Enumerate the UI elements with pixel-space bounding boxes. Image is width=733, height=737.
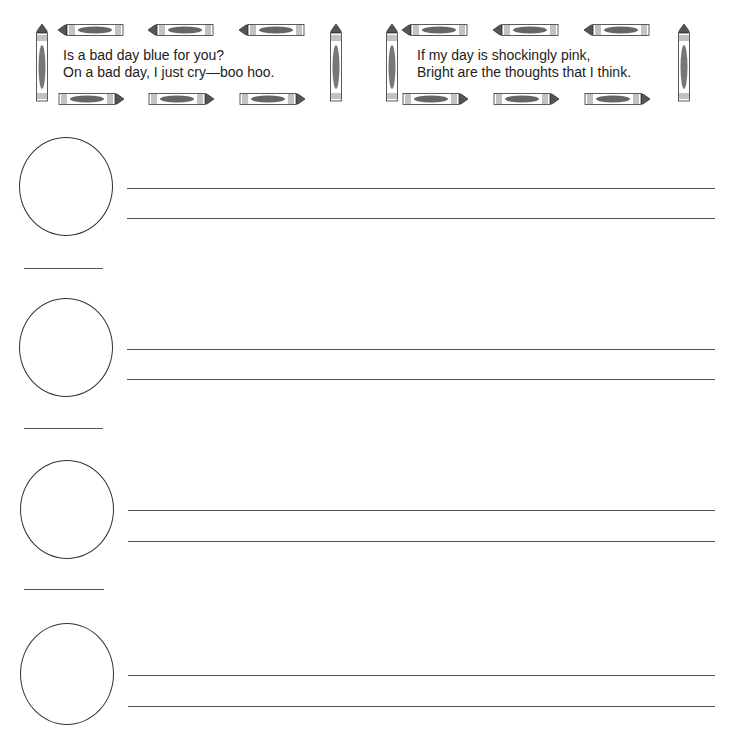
crayon-icon bbox=[402, 24, 468, 36]
label-line[interactable] bbox=[24, 589, 104, 590]
crayon-icon bbox=[148, 93, 214, 105]
crayon-icon bbox=[330, 24, 342, 104]
crayon-icon bbox=[584, 24, 650, 36]
crayon-icon bbox=[493, 93, 559, 105]
crayon-icon bbox=[36, 24, 48, 104]
writing-line[interactable] bbox=[128, 510, 715, 511]
poem-text: Is a bad day blue for you? On a bad day,… bbox=[63, 47, 274, 81]
poem-box-blue: Is a bad day blue for you? On a bad day,… bbox=[36, 20, 346, 108]
crayon-icon bbox=[678, 24, 690, 104]
drawing-circle[interactable] bbox=[20, 623, 114, 725]
crayon-icon bbox=[58, 24, 124, 36]
crayon-icon bbox=[402, 93, 468, 105]
writing-line[interactable] bbox=[128, 675, 715, 676]
writing-line[interactable] bbox=[127, 379, 715, 380]
writing-line[interactable] bbox=[127, 188, 715, 189]
label-line[interactable] bbox=[24, 428, 103, 429]
poem-box-pink: If my day is shockingly pink, Bright are… bbox=[386, 20, 696, 108]
drawing-circle[interactable] bbox=[19, 137, 113, 236]
poem-line: Bright are the thoughts that I think. bbox=[417, 64, 631, 81]
poem-text: If my day is shockingly pink, Bright are… bbox=[417, 47, 631, 81]
writing-line[interactable] bbox=[127, 349, 715, 350]
poem-line: Is a bad day blue for you? bbox=[63, 47, 274, 64]
writing-line[interactable] bbox=[128, 541, 715, 542]
poem-line: If my day is shockingly pink, bbox=[417, 47, 631, 64]
writing-line[interactable] bbox=[128, 706, 715, 707]
poem-line: On a bad day, I just cry—boo hoo. bbox=[63, 64, 274, 81]
crayon-icon bbox=[239, 24, 305, 36]
crayon-icon bbox=[148, 24, 214, 36]
crayon-icon bbox=[239, 93, 305, 105]
crayon-icon bbox=[493, 24, 559, 36]
crayon-icon bbox=[386, 24, 398, 104]
writing-line[interactable] bbox=[127, 218, 715, 219]
label-line[interactable] bbox=[24, 268, 103, 269]
drawing-circle[interactable] bbox=[20, 460, 114, 559]
crayon-icon bbox=[58, 93, 124, 105]
crayon-icon bbox=[584, 93, 650, 105]
drawing-circle[interactable] bbox=[19, 298, 113, 397]
